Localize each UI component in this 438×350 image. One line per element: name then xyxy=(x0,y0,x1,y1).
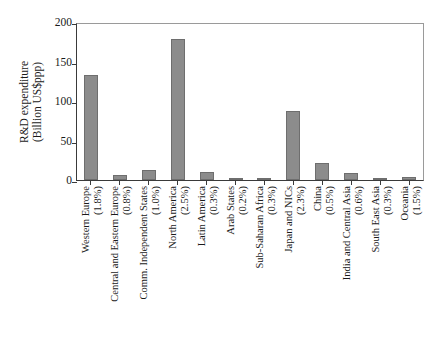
x-axis-label-slot: Central and Eastern Europe(0.8%) xyxy=(105,186,134,316)
x-axis-tick-label: China(0.5%) xyxy=(311,186,334,215)
x-axis-label-name: Japan and NICs xyxy=(282,186,294,253)
x-axis-tick-mark xyxy=(235,181,236,185)
x-axis-label-slot: South East Asia(0.3%) xyxy=(366,186,395,316)
x-axis-tick-label: Latin America(0.3%) xyxy=(195,186,218,246)
x-axis-label-name: Central and Eastern Europe xyxy=(108,186,120,302)
bar xyxy=(113,175,127,180)
x-axis-label-percent: (0.2%) xyxy=(236,186,248,235)
x-axis-tick-label: Japan and NICs(2.3%) xyxy=(282,186,305,253)
x-axis-label-percent: (1.8%) xyxy=(91,186,103,253)
y-axis-tick-label: 50 xyxy=(42,136,72,148)
bar-slot xyxy=(106,24,135,180)
x-axis-label-slot: Sub-Saharan Africa(0.3%) xyxy=(250,186,279,316)
bar-slot xyxy=(336,24,365,180)
x-axis-label-name: Sub-Saharan Africa xyxy=(253,186,265,269)
bar-slot xyxy=(308,24,337,180)
y-axis-tick-labels: 050100150200 xyxy=(42,0,72,350)
y-axis-tick-mark xyxy=(72,143,77,144)
x-axis-tick-label: India and Central Asia(0.6%) xyxy=(340,186,363,280)
x-axis-label-name: India and Central Asia xyxy=(340,186,352,280)
x-axis-label-slot: India and Central Asia(0.6%) xyxy=(337,186,366,316)
x-axis-label-percent: (0.8%) xyxy=(120,186,132,302)
x-axis-tick-mark xyxy=(351,181,352,185)
x-axis-label-name: Comm. Independent States xyxy=(137,186,149,299)
y-axis-tick-mark xyxy=(72,103,77,104)
bar xyxy=(257,178,271,180)
y-axis-title-line-1: R&D expenditure xyxy=(18,61,31,143)
plot-area xyxy=(76,23,424,181)
x-axis-tick-mark xyxy=(264,181,265,185)
x-axis-tick-label: Comm. Independent States(1.0%) xyxy=(137,186,160,299)
bar-slot xyxy=(77,24,106,180)
x-axis-tick-mark xyxy=(380,181,381,185)
x-axis-label-slot: Oceania(1.5%) xyxy=(395,186,424,316)
bar xyxy=(200,172,214,180)
bar xyxy=(84,75,98,180)
x-axis-label-percent: (0.6%) xyxy=(352,186,364,280)
bar xyxy=(229,178,243,180)
bar-slot xyxy=(394,24,423,180)
x-axis-label-name: Oceania xyxy=(398,186,410,220)
x-axis-tick-mark xyxy=(322,181,323,185)
x-axis-tick-mark xyxy=(119,181,120,185)
x-axis-label-name: Western Europe xyxy=(79,186,91,253)
x-axis-label-slot: North America(2.5%) xyxy=(163,186,192,316)
bar-slot xyxy=(192,24,221,180)
y-axis-tick-mark xyxy=(72,24,77,25)
bar xyxy=(286,111,300,180)
x-axis-label-slot: Japan and NICs(2.3%) xyxy=(279,186,308,316)
x-axis-label-percent: (0.5%) xyxy=(323,186,335,215)
x-axis-label-name: South East Asia xyxy=(369,186,381,253)
x-axis-label-percent: (2.5%) xyxy=(178,186,190,249)
x-axis-label-name: Latin America xyxy=(195,186,207,246)
x-axis-tick-mark xyxy=(409,181,410,185)
bar-slot xyxy=(250,24,279,180)
bar xyxy=(315,163,329,180)
x-axis-label-percent: (1.5%) xyxy=(410,186,422,220)
y-axis-tick-label: 150 xyxy=(42,57,72,69)
x-axis-label-name: China xyxy=(311,186,323,215)
x-axis-tick-label: Central and Eastern Europe(0.8%) xyxy=(108,186,131,302)
bar xyxy=(344,173,358,180)
x-axis-label-slot: Western Europe(1.8%) xyxy=(76,186,105,316)
x-axis-tick-label: Western Europe(1.8%) xyxy=(79,186,102,253)
bar-slot xyxy=(135,24,164,180)
x-axis-tick-mark xyxy=(206,181,207,185)
x-axis-tick-label: Arab States(0.2%) xyxy=(224,186,247,235)
x-axis-tick-labels: Western Europe(1.8%)Central and Eastern … xyxy=(76,186,424,316)
x-axis-tick-mark xyxy=(90,181,91,185)
bar xyxy=(373,178,387,180)
x-axis-label-percent: (1.0%) xyxy=(149,186,161,299)
x-axis-label-percent: (2.3%) xyxy=(294,186,306,253)
bar-slot xyxy=(163,24,192,180)
x-axis-tick-mark xyxy=(177,181,178,185)
x-axis-tick-label: Sub-Saharan Africa(0.3%) xyxy=(253,186,276,269)
x-axis-label-slot: Latin America(0.3%) xyxy=(192,186,221,316)
x-axis-label-slot: Comm. Independent States(1.0%) xyxy=(134,186,163,316)
y-axis-tick-mark xyxy=(72,64,77,65)
bar xyxy=(142,170,156,180)
x-axis-tick-label: North America(2.5%) xyxy=(166,186,189,249)
x-axis-tick-mark xyxy=(293,181,294,185)
x-axis-label-slot: Arab States(0.2%) xyxy=(221,186,250,316)
x-axis-label-percent: (0.3%) xyxy=(381,186,393,253)
bar xyxy=(402,177,416,180)
bar-slot xyxy=(221,24,250,180)
y-axis-tick-label: 100 xyxy=(42,96,72,108)
x-axis-tick-label: South East Asia(0.3%) xyxy=(369,186,392,253)
bar-slot xyxy=(279,24,308,180)
x-axis-label-percent: (0.3%) xyxy=(207,186,219,246)
bar-chart-figure: R&D expenditure (Billion US$ppp) 0501001… xyxy=(0,0,438,350)
bar-slot xyxy=(365,24,394,180)
x-axis-label-name: North America xyxy=(166,186,178,249)
bar-series xyxy=(77,24,423,180)
y-axis-tick-label: 0 xyxy=(42,175,72,187)
y-axis-tick-label: 200 xyxy=(42,17,72,29)
x-axis-tick-mark xyxy=(148,181,149,185)
x-axis-tick-label: Oceania(1.5%) xyxy=(398,186,421,220)
x-axis-label-percent: (0.3%) xyxy=(265,186,277,269)
x-axis-label-slot: China(0.5%) xyxy=(308,186,337,316)
x-axis-label-name: Arab States xyxy=(224,186,236,235)
bar xyxy=(171,39,185,180)
